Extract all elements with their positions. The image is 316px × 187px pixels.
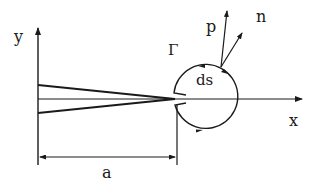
crack-contour-diagram: y x Γ ds p n a — [0, 0, 316, 187]
x-axis-label: x — [289, 111, 298, 130]
crack-lower-face — [38, 99, 175, 113]
traction-label: p — [206, 17, 216, 36]
contour-label: Γ — [168, 41, 178, 59]
normal-label: n — [256, 7, 266, 26]
contour-direction-arrow-bottom — [196, 130, 203, 133]
crack-length-label: a — [102, 163, 112, 182]
crack-upper-face — [38, 85, 175, 99]
y-axis-label: y — [13, 27, 23, 46]
element-label: ds — [196, 71, 213, 89]
